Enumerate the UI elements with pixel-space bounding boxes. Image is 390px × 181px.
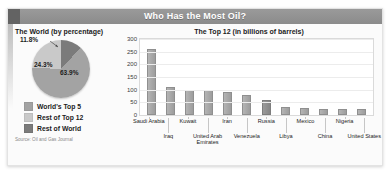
x-axis-label-text: Libya bbox=[268, 133, 304, 139]
panel-left-edge bbox=[8, 24, 13, 165]
bar-libya bbox=[281, 107, 290, 115]
legend-item-rest-of-world: Rest of World bbox=[24, 124, 121, 133]
pie-slice-label-worlds-top5: 63.9% bbox=[60, 69, 78, 76]
x-axis-label-venezuela: Venezuela bbox=[229, 133, 265, 139]
x-axis-tick bbox=[149, 117, 150, 119]
bar-iraq bbox=[166, 87, 175, 115]
legend-item-rest-of-top-12: Rest of Top 12 bbox=[24, 113, 121, 122]
legend-item-label: Rest of World bbox=[37, 125, 81, 132]
title-banner: Who Has the Most Oil? bbox=[8, 9, 382, 24]
x-axis-label-russia: Russia bbox=[248, 118, 284, 124]
pie-slice-label-rest-of-world: 11.8% bbox=[20, 36, 38, 43]
pie-slice-label-rest-of-top12: 24.3% bbox=[34, 61, 52, 68]
x-axis-tick bbox=[188, 117, 189, 119]
bar-venezuela bbox=[242, 95, 251, 115]
legend-item-label: Rest of Top 12 bbox=[37, 114, 83, 121]
gridline bbox=[140, 77, 373, 78]
gridline bbox=[140, 39, 373, 40]
bar-saudi-arabia bbox=[147, 49, 156, 115]
plot-area bbox=[139, 38, 374, 116]
legend-item-label: World's Top 5 bbox=[37, 103, 81, 110]
x-axis-label-kuwait: Kuwait bbox=[170, 118, 206, 124]
x-axis-label-mexico: Mexico bbox=[287, 118, 323, 124]
x-axis-tick bbox=[364, 118, 365, 133]
bar-iran bbox=[223, 92, 232, 115]
x-axis-label-text: United States bbox=[346, 133, 382, 139]
x-axis-label-text: China bbox=[307, 133, 343, 139]
source-note: Source: Oil and Gas Journal bbox=[15, 137, 121, 142]
legend-swatch-icon bbox=[24, 113, 33, 122]
x-axis-tick bbox=[305, 117, 306, 119]
x-axis-label-united-states: United States bbox=[346, 133, 382, 139]
y-axis: 050100150200250300 bbox=[120, 38, 138, 116]
bar-mexico bbox=[300, 108, 309, 115]
pie-chart-title: The World (by percentage) bbox=[15, 28, 121, 35]
y-axis-tick-label: 200 bbox=[127, 61, 137, 67]
y-axis-tick-label: 100 bbox=[127, 87, 137, 93]
pie-leader-line-icon bbox=[50, 41, 59, 48]
legend-item-worlds-top-5: World's Top 5 bbox=[24, 102, 121, 111]
pie-chart-panel: The World (by percentage) 11.8% 24.3% 63… bbox=[14, 28, 121, 158]
banner-tab-accent bbox=[8, 9, 20, 24]
y-axis-tick-label: 300 bbox=[127, 36, 137, 42]
legend-swatch-icon bbox=[24, 124, 33, 133]
x-axis-label-iran: Iran bbox=[209, 118, 245, 124]
bar-chart-figure: 050100150200250300 Saudi ArabiaIraqKuwai… bbox=[120, 38, 378, 121]
gridline bbox=[140, 52, 373, 53]
bar-nigeria bbox=[338, 109, 347, 115]
x-axis-label-libya: Libya bbox=[268, 133, 304, 139]
x-axis-label-china: China bbox=[307, 133, 343, 139]
bar-chart-title: The Top 12 (in billions of barrels) bbox=[120, 28, 378, 35]
x-axis-label-text: Iraq bbox=[150, 133, 186, 139]
x-axis-label-text: Venezuela bbox=[229, 133, 265, 139]
pie-chart-figure: 11.8% 24.3% 63.9% bbox=[14, 37, 121, 99]
gridline bbox=[140, 102, 373, 103]
x-axis-label-saudi-arabia: Saudi Arabia bbox=[131, 118, 167, 124]
bar-china bbox=[319, 109, 328, 115]
bar-united-states bbox=[357, 109, 366, 115]
x-axis-label-iraq: Iraq bbox=[150, 133, 186, 139]
infographic-root: Who Has the Most Oil? The World (by perc… bbox=[0, 0, 390, 181]
pie-legend: World's Top 5 Rest of Top 12 Rest of Wor… bbox=[14, 102, 121, 133]
x-axis-labels: Saudi ArabiaIraqKuwaitUnited Arab Emirat… bbox=[139, 117, 374, 165]
x-axis-tick bbox=[266, 117, 267, 119]
gridline bbox=[140, 90, 373, 91]
x-axis-label-united-arab-emirates: United Arab Emirates bbox=[190, 133, 226, 146]
gridline bbox=[140, 64, 373, 65]
y-axis-tick-label: 50 bbox=[130, 99, 137, 105]
x-axis-tick bbox=[345, 117, 346, 119]
x-axis-label-nigeria: Nigeria bbox=[327, 118, 363, 124]
legend-swatch-icon bbox=[24, 102, 33, 111]
y-axis-tick-label: 250 bbox=[127, 49, 137, 55]
y-axis-tick-label: 150 bbox=[127, 74, 137, 80]
x-axis-tick bbox=[227, 117, 228, 119]
x-axis-label-text: United Arab Emirates bbox=[190, 133, 226, 146]
bar-chart-panel: The Top 12 (in billions of barrels) 0501… bbox=[120, 28, 378, 158]
page-title: Who Has the Most Oil? bbox=[144, 9, 246, 24]
